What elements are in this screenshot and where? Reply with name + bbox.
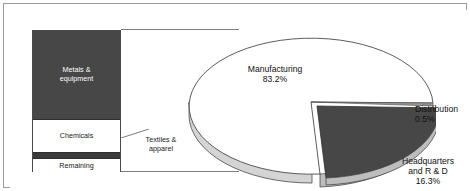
bar-segment-label-remaining: Remaining	[59, 162, 93, 171]
breakout-stacked-bar: Metals & equipment Chemicals Remaining	[32, 30, 121, 172]
bar-segment-label-metals-equipment: Metals & equipment	[60, 66, 94, 83]
figure-frame: Metals & equipment Chemicals Remaining T…	[3, 3, 467, 188]
bar-segment-label-textiles-apparel: Textiles & apparel	[130, 136, 192, 153]
bar-segment-remaining: Remaining	[33, 159, 120, 173]
pie-label-headquarters: Headquarters and R & D 16.3%	[378, 156, 470, 187]
pie-label-distribution: Distribution 0.5%	[415, 104, 470, 124]
bar-segment-metals-equipment: Metals & equipment	[33, 31, 120, 120]
bar-segment-label-chemicals: Chemicals	[60, 132, 94, 141]
bar-segment-chemicals: Chemicals	[33, 120, 120, 153]
chart-figure: Metals & equipment Chemicals Remaining T…	[0, 0, 470, 191]
plot-area: Metals & equipment Chemicals Remaining T…	[10, 10, 468, 189]
pie-label-manufacturing: Manufacturing 83.2%	[223, 64, 327, 84]
